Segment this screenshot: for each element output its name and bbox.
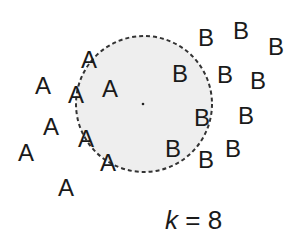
k-variable: k — [165, 205, 178, 235]
point-b: B — [238, 104, 254, 128]
point-a: A — [100, 151, 116, 175]
point-b: B — [225, 137, 241, 161]
point-a: A — [35, 74, 51, 98]
point-a: A — [78, 127, 94, 151]
point-b: B — [250, 69, 266, 93]
point-b: B — [198, 148, 214, 172]
point-a: A — [58, 176, 74, 200]
point-b: B — [217, 63, 233, 87]
point-b: B — [198, 26, 214, 50]
k-value: = 8 — [178, 205, 222, 235]
point-b: B — [194, 106, 210, 130]
point-a: A — [18, 141, 34, 165]
query-point — [142, 103, 145, 106]
point-a: A — [68, 83, 84, 107]
point-b: B — [165, 137, 181, 161]
k-caption: k = 8 — [165, 205, 222, 236]
point-a: A — [43, 115, 59, 139]
point-b: B — [172, 62, 188, 86]
point-a: A — [81, 48, 97, 72]
point-b: B — [268, 35, 284, 59]
point-a: A — [102, 77, 118, 101]
point-b: B — [233, 19, 249, 43]
